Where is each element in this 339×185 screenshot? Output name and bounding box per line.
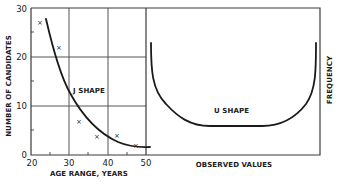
u-shape-chart: U SHAPE OBSERVED VALUES FREQUENCY xyxy=(146,8,334,169)
x-tick-20: 20 xyxy=(27,158,38,168)
data-point-marker: × xyxy=(56,44,62,52)
x-axis-label: OBSERVED VALUES xyxy=(196,161,273,169)
figure: 30 20 10 0 20 30 40 50 NUMBER OF CANDIDA… xyxy=(0,0,339,185)
data-point-marker: × xyxy=(37,19,43,27)
x-tick-30: 30 xyxy=(64,158,75,168)
j-shape-annotation: J SHAPE xyxy=(72,87,105,95)
x-axis-label: AGE RANGE, YEARS xyxy=(50,170,128,178)
y-tick-10: 10 xyxy=(16,101,27,111)
j-shape-chart: 30 20 10 0 20 30 40 50 NUMBER OF CANDIDA… xyxy=(5,4,151,178)
u-shape-annotation: U SHAPE xyxy=(214,107,249,115)
data-point-marker: × xyxy=(94,133,100,141)
data-point-marker: × xyxy=(133,142,139,150)
y-tick-30: 30 xyxy=(16,4,27,14)
data-point-marker: × xyxy=(76,118,82,126)
y-axis-label: FREQUENCY xyxy=(326,55,334,104)
plot-frame xyxy=(146,8,320,155)
data-markers: × × × × × × xyxy=(37,19,139,150)
x-tick-50: 50 xyxy=(141,158,152,168)
data-point-marker: × xyxy=(114,132,120,140)
y-tick-20: 20 xyxy=(16,52,27,62)
x-tick-40: 40 xyxy=(103,158,114,168)
j-shape-curve xyxy=(46,19,150,147)
y-axis-label: NUMBER OF CANDIDATES xyxy=(5,35,13,137)
